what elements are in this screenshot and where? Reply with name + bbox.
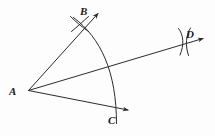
arc-intersection-mark-D-outer	[179, 29, 183, 56]
vertex-label-b: B	[80, 6, 87, 17]
vertex-label-c: C	[108, 115, 115, 126]
ray-AB	[29, 14, 99, 91]
geometry-figure: A B C D	[0, 0, 215, 136]
vertex-label-d: D	[186, 29, 194, 40]
ray-AD	[29, 39, 204, 91]
ray-AC	[29, 91, 129, 111]
vertex-label-a: A	[9, 86, 16, 97]
